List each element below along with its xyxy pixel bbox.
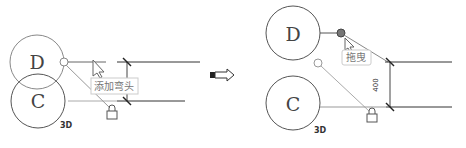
dimension-value[interactable]: 400 — [372, 78, 380, 91]
transition-arrow-icon — [210, 69, 234, 81]
tooltip-text: 拖曳 — [346, 51, 366, 63]
grip-handle[interactable] — [314, 59, 322, 67]
level-tag: 3D — [60, 121, 73, 130]
leader-line — [321, 66, 369, 111]
tooltip-text: 添加弯头 — [94, 80, 134, 92]
diagram: D C 添加弯头 3D D C — [0, 0, 466, 148]
grid-label-c: C — [286, 93, 301, 115]
grip-handle[interactable] — [60, 58, 68, 66]
left-panel: D C 添加弯头 3D — [10, 35, 200, 130]
grip-handle-active[interactable] — [337, 29, 345, 37]
level-tag: 3D — [314, 126, 327, 135]
right-panel: D C 400 拖曳 3D — [266, 6, 452, 135]
grid-label-d: D — [29, 51, 44, 73]
grid-label-c: C — [31, 90, 46, 112]
grid-label-d: D — [285, 23, 300, 45]
cursor-icon — [93, 60, 104, 78]
